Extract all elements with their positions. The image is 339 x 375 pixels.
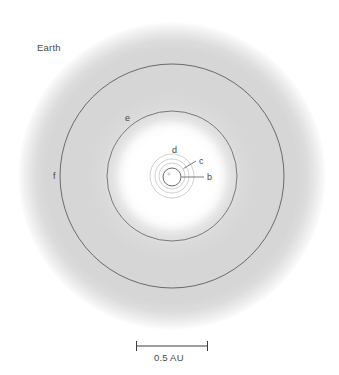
label-planet-b: b bbox=[207, 173, 212, 182]
scale-bar-label: 0.5 AU bbox=[154, 353, 184, 363]
label-planet-d: d bbox=[172, 146, 177, 155]
label-planet-c: c bbox=[199, 157, 204, 166]
figure-canvas: Earth f e d c b 0.5 AU bbox=[0, 0, 339, 375]
central-star bbox=[163, 168, 181, 186]
label-earth: Earth bbox=[37, 43, 61, 53]
label-planet-f: f bbox=[53, 172, 56, 181]
scale-bar bbox=[136, 341, 208, 351]
label-planet-e: e bbox=[125, 114, 130, 123]
orbital-system-diagram bbox=[0, 0, 339, 375]
